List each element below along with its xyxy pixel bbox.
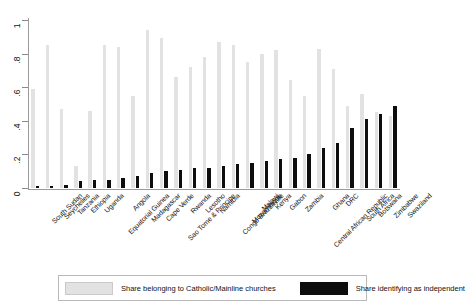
bar-independent [336, 143, 339, 188]
bar-independent [107, 180, 110, 188]
bar-independent [236, 164, 239, 188]
y-tick-label: 0 [0, 183, 20, 193]
bar-independent [193, 168, 196, 188]
bar-independent [279, 159, 282, 188]
bar-independent [350, 128, 353, 188]
bar-independent [136, 176, 139, 188]
bar-group [28, 20, 42, 188]
bar-catholic-mainline [160, 38, 163, 188]
bar-independent [265, 161, 268, 188]
bar-catholic-mainline [74, 166, 77, 188]
bar-catholic-mainline [146, 30, 149, 188]
legend-entry-catholic-mainline: Share belonging to Catholic/Mainline chu… [65, 276, 276, 300]
bar-group [128, 20, 142, 188]
bar-group [243, 20, 257, 188]
bar-group [271, 20, 285, 188]
bar-catholic-mainline [46, 45, 49, 188]
chart-legend: Share belonging to Catholic/Mainline chu… [58, 275, 367, 301]
bar-independent [179, 170, 182, 188]
bar-group [328, 20, 342, 188]
y-tick-mark [22, 188, 28, 189]
bar-group [42, 20, 56, 188]
bar-independent [64, 185, 67, 188]
bar-independent [222, 166, 225, 188]
bar-group [357, 20, 371, 188]
bar-group [257, 20, 271, 188]
bar-catholic-mainline [332, 69, 335, 188]
bar-group [286, 20, 300, 188]
bar-group [142, 20, 156, 188]
bar-group [71, 20, 85, 188]
legend-label-catholic-mainline: Share belonging to Catholic/Mainline chu… [121, 284, 276, 293]
bar-catholic-mainline [203, 57, 206, 188]
bar-catholic-mainline [117, 47, 120, 188]
bar-group [228, 20, 242, 188]
bar-independent [207, 168, 210, 188]
y-tick-label: .6 [0, 82, 20, 92]
bar-independent [365, 119, 368, 188]
bar-group [214, 20, 228, 188]
bar-group [343, 20, 357, 188]
legend-entry-independent: Share identifying as independent [300, 276, 465, 300]
bar-catholic-mainline [289, 80, 292, 188]
y-tick-label: .4 [0, 116, 20, 126]
bar-independent [293, 158, 296, 188]
bar-catholic-mainline [131, 96, 134, 188]
bar-independent [121, 178, 124, 188]
bar-catholic-mainline [60, 109, 63, 188]
light-swatch-icon [65, 282, 113, 295]
bar-catholic-mainline [174, 77, 177, 188]
y-tick-label: 1 [0, 15, 20, 25]
bar-independent [250, 163, 253, 188]
bar-catholic-mainline [260, 54, 263, 188]
bar-independent [93, 180, 96, 188]
legend-label-independent: Share identifying as independent [356, 284, 465, 293]
bar-catholic-mainline [31, 89, 34, 188]
bar-independent [79, 181, 82, 188]
bar-independent [36, 186, 39, 188]
bar-group [171, 20, 185, 188]
bar-catholic-mainline [346, 106, 349, 188]
bar-catholic-mainline [232, 45, 235, 188]
dark-swatch-icon [300, 282, 348, 295]
bar-group [386, 20, 400, 188]
bar-catholic-mainline [389, 116, 392, 188]
bar-independent [307, 154, 310, 188]
y-tick-label: .2 [0, 149, 20, 159]
bar-group [314, 20, 328, 188]
bar-catholic-mainline [317, 49, 320, 188]
bar-catholic-mainline [274, 50, 277, 188]
bar-independent [393, 106, 396, 188]
bar-catholic-mainline [189, 67, 192, 188]
bar-independent [50, 186, 53, 188]
y-tick-label: .8 [0, 49, 20, 59]
bar-group [100, 20, 114, 188]
bar-catholic-mainline [303, 96, 306, 188]
bar-group [300, 20, 314, 188]
bar-catholic-mainline [360, 94, 363, 188]
bar-catholic-mainline [246, 62, 249, 188]
bar-catholic-mainline [103, 45, 106, 188]
bar-catholic-mainline [88, 111, 91, 188]
bar-group [57, 20, 71, 188]
bar-group [114, 20, 128, 188]
bar-group [85, 20, 99, 188]
bar-group [200, 20, 214, 188]
bar-catholic-mainline [217, 42, 220, 188]
bar-independent [164, 171, 167, 188]
x-axis-labels: South SudanSeychellesTanzaniaEthiopiaUga… [28, 190, 400, 270]
bar-independent [379, 114, 382, 188]
bar-catholic-mainline [375, 112, 378, 188]
bar-group [157, 20, 171, 188]
plot-area [28, 20, 400, 188]
bar-independent [150, 173, 153, 188]
bar-group [371, 20, 385, 188]
bar-group [185, 20, 199, 188]
bar-independent [322, 148, 325, 188]
